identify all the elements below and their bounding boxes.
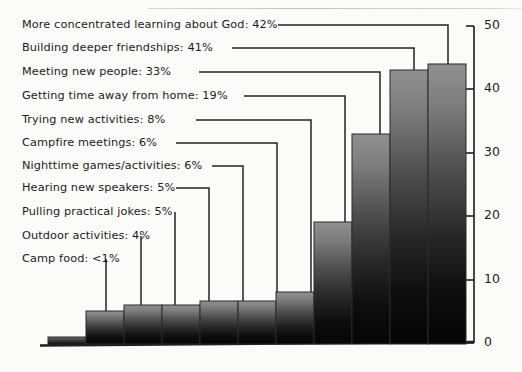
bar-meeting-new-people xyxy=(352,134,390,344)
callout-label-pulling-practical-jokes: Pulling practical jokes: 5% xyxy=(22,206,173,217)
leader-line-building-deeper-friendships xyxy=(232,48,414,70)
bar-hearing-new-speakers xyxy=(162,305,200,344)
callout-label-getting-time-away-from-home: Getting time away from home: 19% xyxy=(22,90,228,101)
bar-building-deeper-friendships xyxy=(390,70,428,344)
bar-getting-time-away-from-home xyxy=(314,222,352,344)
y-tick-label-50: 50 xyxy=(484,19,500,31)
y-tick-label-0: 0 xyxy=(484,336,492,348)
bar-nighttime-games xyxy=(200,301,238,344)
callout-label-building-deeper-friendships: Building deeper friendships: 41% xyxy=(22,42,213,53)
callout-label-nighttime-games-activities: Nighttime games/activities: 6% xyxy=(22,160,202,171)
callout-label-camp-food: Camp food: <1% xyxy=(22,253,120,264)
bar-pulling-practical-jokes xyxy=(124,305,162,344)
bar-outdoor-activities xyxy=(86,311,124,344)
bar-campfire-meetings xyxy=(238,301,276,344)
callout-label-more-concentrated-learning: More concentrated learning about God: 42… xyxy=(22,19,278,30)
callout-label-outdoor-activities: Outdoor activities: 4% xyxy=(22,230,150,241)
callout-label-meeting-new-people: Meeting new people: 33% xyxy=(22,66,171,77)
bar-camp-food xyxy=(48,337,86,345)
leader-line-nighttime-games xyxy=(212,166,243,301)
leader-line-trying-new-activities xyxy=(196,120,311,292)
bar-more-concentrated-learning xyxy=(428,64,466,344)
leader-line-getting-time-away xyxy=(244,96,345,222)
callout-label-campfire-meetings: Campfire meetings: 6% xyxy=(22,137,157,148)
leader-line-hearing-new-speakers xyxy=(176,188,209,305)
callout-label-trying-new-activities: Trying new activities: 8% xyxy=(22,114,165,125)
leader-line-meeting-new-people xyxy=(199,72,380,134)
y-tick-label-30: 30 xyxy=(484,146,500,158)
leader-line-more-concentrated-learning xyxy=(278,25,448,64)
y-axis xyxy=(466,26,474,343)
y-tick-label-10: 10 xyxy=(484,273,500,285)
y-tick-label-20: 20 xyxy=(484,209,500,221)
chart-figure: More concentrated learning about God: 42… xyxy=(0,0,522,372)
y-tick-label-40: 40 xyxy=(484,82,500,94)
callout-label-hearing-new-speakers: Hearing new speakers: 5% xyxy=(22,182,175,193)
bar-trying-new-activities xyxy=(276,292,314,344)
